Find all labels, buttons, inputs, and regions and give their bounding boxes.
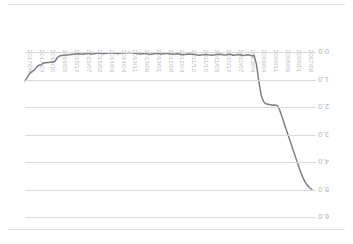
x-axis-labels: 2017/082017/032016/102016/052015/122015/… (25, 6, 312, 50)
y-axis-tick-label: 4.0 (318, 157, 329, 165)
y-axis-tick-label: 2.0 (318, 102, 329, 110)
chart-top-border (8, 4, 345, 5)
y-axis-tick-mark (310, 80, 316, 81)
gridline-y-2.0 (25, 107, 312, 108)
y-axis-tick-mark (310, 107, 316, 108)
y-axis-tick-label: 6.0 (318, 212, 329, 220)
line-series-path (25, 53, 312, 190)
y-axis-tick-mark (310, 162, 316, 163)
chart-bottom-border (8, 229, 345, 230)
chart-container: 2017/082017/032016/102016/052015/122015/… (0, 0, 353, 244)
y-axis-tick-label: 1.0 (318, 75, 329, 83)
y-axis-labels: 0.01.02.03.04.05.06.0 (316, 52, 350, 222)
gridline-y-4.0 (25, 162, 312, 163)
plot-area (25, 52, 312, 217)
y-axis-tick-mark (310, 135, 316, 136)
y-axis-tick-label: 5.0 (318, 185, 329, 193)
y-axis-tick-mark (310, 52, 316, 53)
gridline-y-0.0 (25, 52, 312, 53)
y-axis-tick-mark (310, 190, 316, 191)
gridline-y-6.0 (25, 217, 312, 218)
gridline-y-1.0 (25, 80, 312, 81)
gridline-y-3.0 (25, 135, 312, 136)
y-axis-tick-label: 0.0 (318, 47, 329, 55)
gridline-y-5.0 (25, 190, 312, 191)
y-axis-tick-mark (310, 217, 316, 218)
y-axis-tick-label: 3.0 (318, 130, 329, 138)
